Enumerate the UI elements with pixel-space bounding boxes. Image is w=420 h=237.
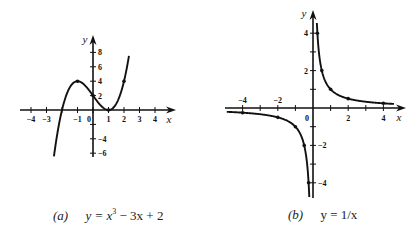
y-tick-label: 2 — [98, 92, 102, 101]
y-tick-label: 6 — [98, 63, 102, 72]
y-tick-label: 4 — [98, 77, 102, 86]
data-point — [307, 181, 311, 185]
data-point — [276, 116, 280, 120]
x-tick-label: −3 — [42, 115, 51, 124]
figure-canvas: −4−3−1012348642−4−6yx −4−202442−2−4yx — [0, 0, 420, 237]
plot-cubic: −4−3−1012348642−4−6yx — [20, 33, 176, 158]
x-tick-label: 2 — [122, 115, 126, 124]
data-point — [346, 97, 350, 101]
caption-a: (a) y = x3 − 3x + 2 — [53, 207, 163, 224]
data-point — [122, 79, 126, 83]
data-point — [302, 144, 306, 148]
x-tick-label: 4 — [153, 115, 157, 124]
x-tick-label: −4 — [238, 96, 247, 105]
data-point — [294, 125, 298, 129]
x-tick-label: 3 — [138, 115, 142, 124]
y-tick-label: 4 — [304, 29, 308, 38]
y-axis-label: y — [301, 7, 307, 19]
x-tick-label: 0 — [305, 114, 309, 123]
x-tick-label: −4 — [27, 115, 36, 124]
data-point — [320, 69, 324, 73]
x-tick-label: 1 — [107, 115, 111, 124]
data-point — [329, 88, 333, 92]
y-tick-label: −4 — [98, 135, 107, 144]
x-axis-label: x — [396, 111, 402, 123]
plot-reciprocal: −4−202442−2−4yx — [225, 7, 406, 198]
reciprocal-curve-negative — [227, 112, 310, 197]
caption-b: (b) y = 1/x — [288, 207, 357, 223]
caption-a-equation: y = x3 − 3x + 2 — [85, 208, 163, 223]
x-tick-label: 0 — [87, 115, 91, 124]
y-tick-label: 2 — [304, 67, 308, 76]
caption-a-tag: (a) — [53, 208, 68, 223]
x-tick-label: −1 — [73, 115, 82, 124]
x-axis-label: x — [166, 113, 172, 125]
data-point — [241, 111, 245, 115]
caption-b-tag: (b) — [288, 207, 303, 222]
caption-a-eq-prefix: y = x — [85, 208, 112, 223]
caption-b-equation: y = 1/x — [320, 207, 357, 222]
data-point — [76, 79, 80, 83]
data-point — [107, 108, 111, 112]
y-tick-label: −6 — [98, 149, 107, 158]
y-tick-label: −4 — [318, 179, 327, 188]
y-axis-label: y — [82, 33, 88, 45]
reciprocal-curve-positive — [317, 23, 394, 104]
y-tick-label: −2 — [318, 141, 327, 150]
x-tick-label: −2 — [274, 96, 283, 105]
cubic-curve — [54, 56, 129, 157]
x-tick-label: 4 — [381, 114, 385, 123]
data-point — [91, 94, 95, 98]
caption-a-eq-suffix: − 3x + 2 — [116, 208, 163, 223]
data-point — [316, 31, 320, 35]
data-point — [382, 102, 386, 106]
x-tick-label: 2 — [346, 114, 350, 123]
y-tick-label: 8 — [98, 48, 102, 57]
